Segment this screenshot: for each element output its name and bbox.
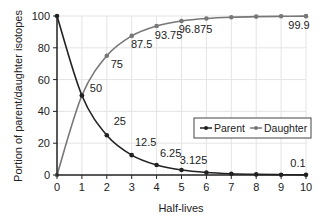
x-tick-label: 3 (129, 181, 135, 193)
x-tick-label: 0 (54, 181, 60, 193)
y-tick-label: 60 (38, 74, 50, 86)
x-tick-label: 6 (203, 181, 209, 193)
daughter-point-marker (154, 24, 159, 29)
parent-data-label: 25 (114, 115, 126, 127)
x-tick-label: 7 (228, 181, 234, 193)
daughter-point-marker (254, 14, 259, 19)
daughter-data-label: 87.5 (131, 38, 152, 50)
x-axis-title: Half-lives (158, 202, 204, 214)
daughter-point-marker (105, 53, 110, 58)
x-tick-label: 9 (278, 181, 284, 193)
daughter-data-label: 96.875 (179, 23, 213, 35)
parent-data-label: 0.1 (290, 157, 305, 169)
y-tick-label: 20 (38, 137, 50, 149)
legend-parent-label: Parent (214, 122, 245, 134)
daughter-point-marker (204, 16, 209, 21)
parent-point-marker (154, 163, 159, 168)
x-tick-label: 10 (300, 181, 312, 193)
daughter-point-marker (279, 14, 284, 19)
y-tick-label: 0 (44, 169, 50, 181)
decay-chart: 012345678910020406080100 2512.56.253.125… (0, 0, 329, 221)
x-tick-label: 2 (104, 181, 110, 193)
parent-data-label: 12.5 (135, 136, 156, 148)
parent-point-marker (129, 153, 134, 158)
legend: Parent Daughter (194, 118, 311, 138)
y-tick-label: 80 (38, 42, 50, 54)
parent-point-marker (179, 168, 184, 173)
daughter-data-label: 75 (111, 58, 123, 70)
parent-data-label: 6.25 (160, 147, 181, 159)
x-tick-label: 4 (154, 181, 160, 193)
y-tick-label: 40 (38, 105, 50, 117)
parent-point-marker (80, 93, 85, 98)
y-tick-label: 100 (32, 10, 50, 22)
y-axis-title: Portion of parent/daughter isotopes (12, 10, 24, 182)
x-tick-label: 1 (79, 181, 85, 193)
daughter-point-marker (229, 15, 234, 20)
legend-daughter-label: Daughter (264, 122, 308, 134)
daughter-data-label: 99.9 (288, 19, 309, 31)
daughter-point-marker (304, 14, 309, 19)
parent-data-label: 3.125 (180, 154, 208, 166)
parent-point-marker (105, 133, 110, 138)
x-tick-label: 8 (253, 181, 259, 193)
parent-point-marker (204, 170, 209, 175)
x-tick-label: 5 (178, 181, 184, 193)
daughter-data-label: 50 (90, 82, 102, 94)
